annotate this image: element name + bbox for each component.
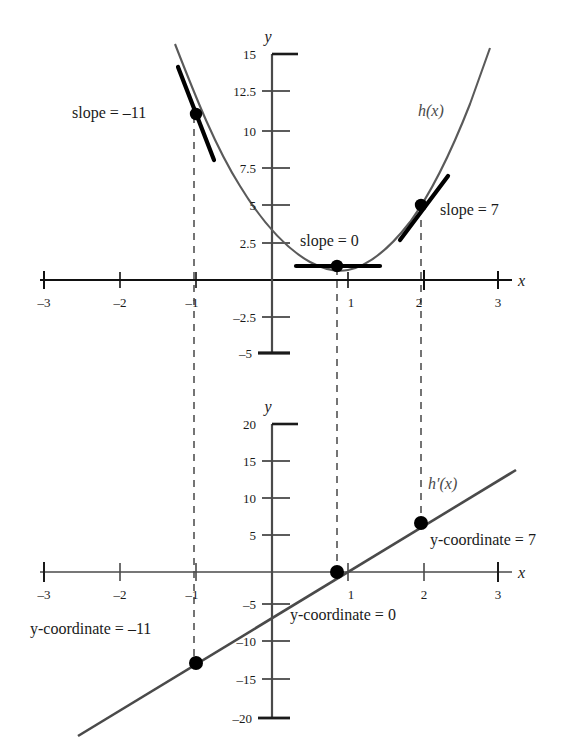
bottom-chart: y x –3 –2 –1 1 2 3 20 15 10 5 –5 –10 –15… <box>30 398 536 736</box>
bottom-x-label-3: 3 <box>495 587 502 602</box>
point-slope-zero <box>331 260 343 272</box>
annotation-slope-neg11: slope = –11 <box>72 104 146 122</box>
h-function-label: h(x) <box>418 102 444 120</box>
top-y-label-neg2-5: –2.5 <box>232 310 256 325</box>
point-ycoord-zero <box>330 565 344 579</box>
h-prime-function-label: h′(x) <box>428 475 457 493</box>
point-ycoord-neg11 <box>189 656 203 670</box>
top-y-label-10: 10 <box>243 124 256 139</box>
annotation-ycoord-seven: y-coordinate = 7 <box>430 531 536 549</box>
bottom-y-label-5: 5 <box>250 528 257 543</box>
bottom-x-label-neg2: –2 <box>113 587 127 602</box>
top-y-axis <box>258 54 298 353</box>
point-slope-seven <box>415 199 427 211</box>
top-x-label-neg2: –2 <box>113 295 127 310</box>
top-x-label-neg1: –1 <box>185 295 199 310</box>
annotation-slope-seven: slope = 7 <box>440 201 499 219</box>
annotation-ycoord-neg11: y-coordinate = –11 <box>30 620 151 638</box>
top-chart: y x –3 –2 –1 1 2 3 15 12.5 10 7.5 5 2.5 … <box>37 28 526 361</box>
top-y-label-15: 15 <box>243 47 256 62</box>
h-prime-line <box>78 470 516 736</box>
bottom-y-label-neg20: –20 <box>232 711 253 726</box>
top-y-label-12-5: 12.5 <box>233 84 256 99</box>
bottom-y-label-neg5: –5 <box>242 597 256 612</box>
top-x-axis-label: x <box>517 272 525 289</box>
annotation-slope-zero: slope = 0 <box>300 232 359 250</box>
top-y-label-neg5: –5 <box>238 346 252 361</box>
point-slope-neg11 <box>190 108 202 120</box>
bottom-y-axis <box>258 424 298 718</box>
bottom-x-axis <box>40 562 512 582</box>
bottom-x-label-2: 2 <box>421 587 428 602</box>
top-x-label-2: 2 <box>416 295 423 310</box>
bottom-y-label-neg10: –10 <box>236 634 257 649</box>
bottom-x-label-1: 1 <box>348 587 355 602</box>
top-x-label-1: 1 <box>348 295 355 310</box>
top-y-label-2-5: 2.5 <box>240 236 256 251</box>
bottom-y-axis-label: y <box>262 398 272 416</box>
top-y-axis-label: y <box>262 28 272 46</box>
bottom-y-label-15: 15 <box>243 454 256 469</box>
bottom-y-label-10: 10 <box>243 491 256 506</box>
top-x-axis <box>40 270 512 290</box>
bottom-x-label-neg1: –1 <box>185 587 199 602</box>
bottom-x-axis-label: x <box>517 564 525 581</box>
derivative-figure: y x –3 –2 –1 1 2 3 15 12.5 10 7.5 5 2.5 … <box>0 0 580 749</box>
bottom-y-label-20: 20 <box>243 417 256 432</box>
bottom-x-label-neg3: –3 <box>37 587 51 602</box>
top-x-label-neg3: –3 <box>37 295 51 310</box>
point-ycoord-seven <box>414 516 428 530</box>
bottom-y-label-neg15: –15 <box>236 672 257 687</box>
top-y-label-5: 5 <box>250 198 257 213</box>
top-y-label-7-5: 7.5 <box>240 161 256 176</box>
top-x-label-3: 3 <box>495 295 502 310</box>
annotation-ycoord-zero: y-coordinate = 0 <box>290 606 396 624</box>
connector-dashed-lines <box>194 116 421 660</box>
